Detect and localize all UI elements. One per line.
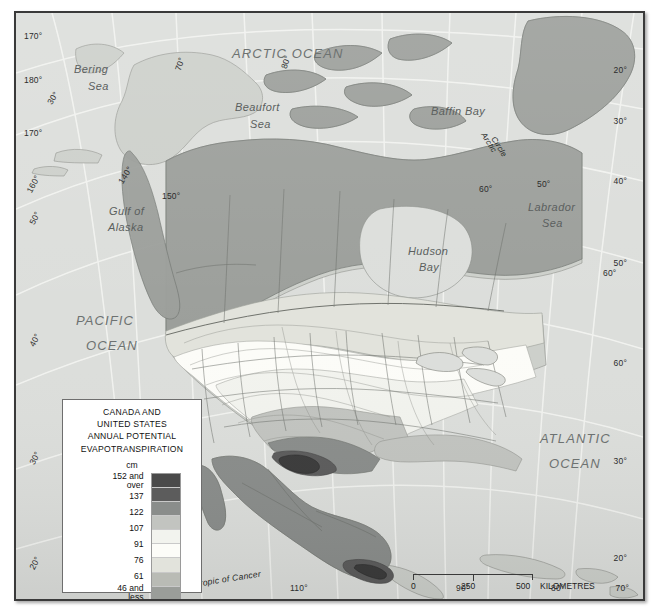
- legend-label-3: 107: [86, 521, 144, 537]
- legend-label-2: 122: [86, 505, 144, 521]
- map-frame: 70° 80° 170° 180° 170° 160° 50° 40° 30° …: [14, 11, 645, 601]
- label-beaufort-sea: Beaufort: [235, 101, 280, 114]
- label-hudson-bay-2: Bay: [419, 261, 439, 274]
- scale-label-250: 250: [461, 581, 475, 591]
- legend-label-7-bottom: less: [128, 593, 143, 601]
- scale-label-500: 500: [516, 581, 530, 591]
- coord-left-170a: 170°: [24, 31, 42, 41]
- scale-bar-graphic: [413, 574, 533, 580]
- label-beaufort-sea-2: Sea: [250, 118, 271, 131]
- coord-interior-150: 150°: [162, 191, 180, 201]
- legend-body: 152 and over 137 122 107 91 76 61 46 and…: [69, 473, 195, 601]
- label-gulf-of-alaska-2: Alaska: [108, 221, 143, 234]
- scale-unit-label: KILOMETRES: [540, 581, 595, 591]
- label-labrador-sea-2: Sea: [542, 217, 563, 230]
- coord-bottom-110: 110°: [290, 583, 308, 593]
- legend-label-0: 152 and over: [86, 473, 144, 489]
- legend-swatch-7: [152, 573, 180, 587]
- label-pacific-ocean-2: OCEAN: [86, 338, 138, 354]
- legend-label-4: 91: [86, 537, 144, 553]
- coord-right-20b: 20°: [614, 553, 627, 563]
- coord-right-30: 30°: [614, 116, 627, 126]
- legend-label-1: 137: [86, 489, 144, 505]
- legend-swatch-5: [152, 544, 180, 558]
- label-arctic-ocean: ARCTIC OCEAN: [232, 46, 343, 62]
- map-scale-bar: 0 250 500 KILOMETRES: [413, 574, 533, 593]
- label-atlantic-ocean-2: OCEAN: [549, 456, 601, 472]
- coord-bottom-70: 70°: [616, 583, 629, 593]
- map-legend: CANADA AND UNITED STATES ANNUAL POTENTIA…: [62, 399, 202, 593]
- coord-right-20: 20°: [614, 65, 627, 75]
- legend-swatch-3: [152, 516, 180, 530]
- legend-title: CANADA AND UNITED STATES ANNUAL POTENTIA…: [69, 406, 195, 455]
- legend-swatch-6: [152, 558, 180, 572]
- legend-color-swatches: [151, 473, 181, 601]
- legend-class-labels: 152 and over 137 122 107 91 76 61 46 and…: [86, 473, 144, 601]
- legend-title-line-4: EVAPOTRANSPIRATION: [69, 443, 195, 455]
- legend-swatch-1: [152, 488, 180, 502]
- label-atlantic-ocean: ATLANTIC: [540, 431, 611, 447]
- map-page: 70° 80° 170° 180° 170° 160° 50° 40° 30° …: [0, 0, 657, 616]
- label-pacific-ocean: PACIFIC: [76, 313, 134, 329]
- label-bering-sea: Bering: [74, 63, 108, 76]
- legend-swatch-0: [152, 474, 180, 488]
- legend-title-line-2: UNITED STATES: [69, 418, 195, 430]
- coord-right-30b: 30°: [614, 456, 627, 466]
- label-baffin-bay: Baffin Bay: [431, 105, 485, 118]
- coord-left-180: 180°: [24, 75, 42, 85]
- legend-label-7: 46 and less: [86, 585, 144, 601]
- label-bering-sea-2: Sea: [88, 80, 109, 93]
- legend-title-line-1: CANADA AND: [69, 406, 195, 418]
- scale-bar-labels: 0 250 500 KILOMETRES: [413, 581, 533, 593]
- label-labrador-sea: Labrador: [528, 201, 575, 214]
- legend-unit-label: cm: [69, 460, 195, 470]
- coord-right-50: 50°: [614, 258, 627, 268]
- legend-swatch-4: [152, 530, 180, 544]
- label-hudson-bay: Hudson: [408, 245, 448, 258]
- coord-interior-60: 60°: [479, 184, 492, 194]
- coord-left-170b: 170°: [24, 128, 42, 138]
- legend-label-5: 76: [86, 553, 144, 569]
- legend-title-line-3: ANNUAL POTENTIAL: [69, 430, 195, 442]
- scale-label-0: 0: [411, 581, 416, 591]
- legend-swatch-8: [152, 587, 180, 600]
- coord-right-40: 40°: [614, 176, 627, 186]
- legend-swatch-2: [152, 502, 180, 516]
- coord-interior-60b: 60°: [603, 268, 616, 278]
- coord-right-60: 60°: [614, 358, 627, 368]
- coord-interior-50: 50°: [537, 179, 550, 189]
- label-gulf-of-alaska: Gulf of: [109, 205, 144, 218]
